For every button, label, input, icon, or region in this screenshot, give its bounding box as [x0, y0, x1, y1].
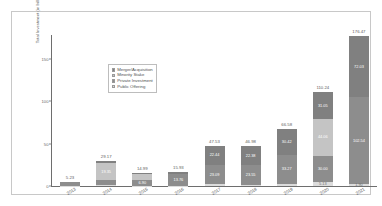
bar-segment-label: 19.35: [101, 170, 111, 174]
bar-total-label: 14.99: [137, 166, 148, 171]
stacked-bar[interactable]: 110.2431.0544.0630.005.13: [313, 92, 333, 186]
plot-area: Total Investment (in billions of U.S. Do…: [51, 33, 377, 188]
bar-segment-label: 6.90: [138, 181, 146, 185]
stacked-bar[interactable]: 66.5830.4233.27: [277, 129, 297, 186]
y-tick-label: 100: [42, 99, 49, 104]
stacked-bar[interactable]: 176.4772.03102.541.90: [349, 36, 369, 186]
bar-segment-label: 30.42: [282, 140, 292, 144]
x-tick-label: 2019: [282, 187, 293, 196]
bar-segment[interactable]: 102.54: [349, 97, 369, 184]
bar-segment-label: 5.13: [319, 182, 327, 186]
bar-segment-label: 13.76: [174, 178, 184, 182]
bar-segment[interactable]: [277, 184, 297, 186]
bar-slot: 15.9313.76: [168, 33, 188, 186]
stacked-bar[interactable]: 5.23: [60, 182, 80, 186]
bar-segment[interactable]: 22.38: [241, 146, 261, 165]
legend-swatch-icon: [112, 79, 115, 82]
bar-slot: 29.1719.35: [96, 33, 116, 186]
bar-total-label: 29.17: [101, 154, 112, 159]
bar-segment[interactable]: 19.35: [96, 163, 116, 179]
bar-slot: 176.4772.03102.541.90: [349, 33, 369, 186]
y-tick-mark: [49, 143, 51, 144]
bar-slot: 5.23: [60, 33, 80, 186]
stacked-bar[interactable]: 46.9822.3823.55: [241, 146, 261, 186]
bar-segment[interactable]: [96, 185, 116, 186]
stacked-bar[interactable]: 47.5322.4423.09: [205, 146, 225, 186]
x-tick-label: 2016: [174, 187, 185, 196]
bar-segment-label: 30.00: [318, 167, 328, 171]
y-tick-label: 150: [42, 56, 49, 61]
bar-segment[interactable]: [205, 184, 225, 186]
x-tick-label: 2015: [138, 187, 149, 196]
bar-total-label: 176.47: [352, 29, 365, 34]
bar-segment[interactable]: 31.05: [313, 92, 333, 118]
y-axis-title: Total Investment (in billions of U.S. Do…: [35, 0, 40, 63]
x-tick-label: 2013: [66, 187, 77, 196]
bar-total-label: 110.24: [316, 85, 329, 90]
bar-total-label: 66.58: [281, 122, 292, 127]
bar-segment[interactable]: 23.09: [205, 165, 225, 185]
bar-segment[interactable]: 44.06: [313, 119, 333, 156]
bar-total-label: 46.98: [245, 139, 256, 144]
bar-segment[interactable]: 13.76: [168, 174, 188, 186]
stacked-bar[interactable]: 15.9313.76: [168, 172, 188, 186]
bar-group: 5.2329.1719.3514.996.9015.9313.7647.5322…: [52, 33, 377, 186]
x-tick-label: 2017: [210, 187, 221, 196]
bar-segment[interactable]: [241, 185, 261, 186]
legend-item[interactable]: Public Offering: [112, 84, 153, 90]
y-tick-label: 50: [44, 141, 49, 146]
bar-segment-label: 22.44: [210, 153, 220, 157]
chart-frame: Total Investment (in billions of U.S. Do…: [11, 11, 371, 195]
bar-segment-label: 44.06: [318, 135, 328, 139]
chart-figure: Total Investment (in billions of U.S. Do…: [0, 0, 382, 206]
bar-total-label: 47.53: [209, 139, 220, 144]
bar-segment-label: 102.54: [353, 139, 365, 143]
bar-segment[interactable]: 30.42: [277, 129, 297, 155]
bar-segment[interactable]: 72.03: [349, 36, 369, 97]
x-tick-label: 2021: [355, 187, 366, 196]
bar-segment[interactable]: 23.55: [241, 165, 261, 185]
x-tick-label: 2014: [102, 187, 113, 196]
bar-segment[interactable]: 5.13: [313, 182, 333, 186]
bar-segment-label: 22.38: [246, 154, 256, 158]
y-tick-mark: [49, 58, 51, 59]
legend-item-label: Private Investment: [117, 79, 153, 83]
bar-slot: 47.5322.4423.09: [205, 33, 225, 186]
y-tick-mark: [49, 186, 51, 187]
bar-segment-label: 33.27: [282, 167, 292, 171]
bar-total-label: 5.23: [66, 175, 74, 180]
bar-segment[interactable]: 22.44: [205, 146, 225, 165]
legend-item-label: Public Offering: [117, 85, 145, 89]
stacked-bar[interactable]: 14.996.90: [132, 173, 152, 186]
bar-segment-label: 23.09: [210, 173, 220, 177]
bar-segment[interactable]: 1.90: [349, 184, 369, 186]
bar-segment-label: 23.55: [246, 173, 256, 177]
bar-total-label: 15.93: [173, 165, 184, 170]
x-tick-label: 2018: [246, 187, 257, 196]
bar-segment-label: 72.03: [354, 65, 364, 69]
bar-segment[interactable]: 33.27: [277, 155, 297, 183]
x-tick-label: 2020: [319, 187, 330, 196]
chart-legend: Merger/AcquisitionMinority StakePrivate …: [108, 64, 157, 93]
bar-segment[interactable]: 30.00: [313, 156, 333, 182]
bar-slot: 14.996.90: [132, 33, 152, 186]
bar-segment-label: 31.05: [318, 104, 328, 108]
legend-swatch-icon: [112, 68, 115, 71]
bar-slot: 66.5830.4233.27: [277, 33, 297, 186]
bar-slot: 110.2431.0544.0630.005.13: [313, 33, 333, 186]
legend-swatch-icon: [112, 85, 115, 88]
bar-slot: 46.9822.3823.55: [241, 33, 261, 186]
legend-swatch-icon: [112, 74, 115, 77]
y-tick-mark: [49, 101, 51, 102]
stacked-bar[interactable]: 29.1719.35: [96, 161, 116, 186]
